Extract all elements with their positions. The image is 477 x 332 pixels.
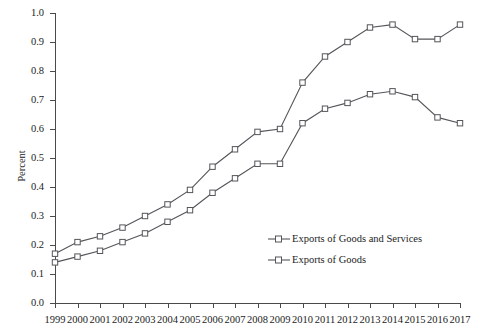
data-point-marker [142, 231, 147, 236]
data-point-marker [255, 161, 260, 166]
x-tick-label: 2001 [90, 313, 111, 327]
x-tick-label: 2013 [360, 313, 381, 327]
x-tick-label: 1999 [45, 313, 66, 327]
data-point-marker [322, 54, 327, 59]
x-tick-label: 2004 [157, 313, 178, 327]
x-tick-label: 2003 [135, 313, 156, 327]
x-tick-label: 2014 [382, 313, 403, 327]
data-point-marker [345, 39, 350, 44]
data-point-marker [277, 161, 282, 166]
data-point-marker [300, 80, 305, 85]
x-tick: 2017 [460, 303, 461, 308]
data-point-marker [322, 106, 327, 111]
data-point-marker [457, 121, 462, 126]
data-point-marker [75, 239, 80, 244]
data-point-marker [187, 187, 192, 192]
data-point-marker [255, 129, 260, 134]
data-point-marker [75, 254, 80, 259]
y-tick-label: 0.0 [31, 295, 44, 311]
data-point-marker [187, 208, 192, 213]
data-point-marker [142, 213, 147, 218]
y-tick-label: 0.3 [31, 208, 44, 224]
x-tick-label: 2005 [180, 313, 201, 327]
y-tick-label: 0.7 [31, 92, 44, 108]
x-tick-label: 2015 [405, 313, 426, 327]
y-tick-label: 0.5 [31, 150, 44, 166]
data-point-marker [345, 100, 350, 105]
x-tick-label: 2002 [112, 313, 133, 327]
x-tick-label: 2012 [337, 313, 358, 327]
data-point-marker [435, 115, 440, 120]
data-point-marker [390, 22, 395, 27]
y-tick-label: 1.0 [31, 5, 44, 21]
chart-container: Percent 0.00.10.20.30.40.50.60.70.80.91.… [0, 0, 477, 332]
data-point-marker [390, 89, 395, 94]
data-point-marker [165, 202, 170, 207]
data-point-marker [165, 219, 170, 224]
data-point-marker [367, 92, 372, 97]
x-tick-label: 2000 [67, 313, 88, 327]
y-tick-label: 0.6 [31, 121, 44, 137]
data-point-marker [232, 176, 237, 181]
data-point-marker [52, 260, 57, 265]
y-tick-label: 0.1 [31, 266, 44, 282]
data-point-marker [277, 126, 282, 131]
legend-item-exports-goods: Exports of Goods [268, 249, 422, 270]
series-line-0 [55, 25, 460, 254]
data-point-marker [412, 36, 417, 41]
y-tick-label: 0.4 [31, 179, 44, 195]
x-tick-label: 2007 [225, 313, 246, 327]
legend-marker-icon [268, 255, 290, 265]
legend-marker-icon [268, 234, 290, 244]
data-point-marker [412, 94, 417, 99]
data-point-marker [97, 234, 102, 239]
legend-label: Exports of Goods [292, 254, 366, 265]
x-tick-label: 2008 [247, 313, 268, 327]
data-point-marker [210, 164, 215, 169]
y-tick-label: 0.9 [31, 34, 44, 50]
data-point-marker [435, 36, 440, 41]
data-point-marker [120, 239, 125, 244]
data-point-marker [210, 190, 215, 195]
legend-item-exports-goods-and-services: Exports of Goods and Services [268, 228, 422, 249]
data-point-marker [367, 25, 372, 30]
y-tick-label: 0.8 [31, 63, 44, 79]
x-tick-label: 2006 [202, 313, 223, 327]
x-tick-label: 2009 [270, 313, 291, 327]
data-point-marker [52, 251, 57, 256]
chart-legend: Exports of Goods and Services Exports of… [268, 228, 422, 270]
data-point-marker [97, 248, 102, 253]
y-axis-title: Percent [16, 150, 27, 182]
data-point-marker [300, 121, 305, 126]
legend-label: Exports of Goods and Services [292, 233, 422, 244]
data-point-marker [232, 147, 237, 152]
x-tick-label: 2017 [450, 313, 471, 327]
x-tick-label: 2011 [315, 313, 336, 327]
x-tick-label: 2010 [292, 313, 313, 327]
data-point-marker [457, 22, 462, 27]
data-point-marker [120, 225, 125, 230]
x-tick-label: 2016 [427, 313, 448, 327]
y-tick-label: 0.2 [31, 237, 44, 253]
